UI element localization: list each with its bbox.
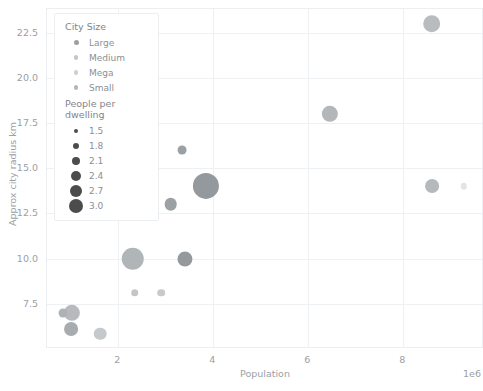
x-gridline <box>403 9 404 347</box>
legend-item-label: 1.8 <box>89 141 103 151</box>
legend-item-label: Small <box>89 83 114 93</box>
legend-item-label: 2.7 <box>89 186 103 196</box>
legend-marker-icon <box>63 129 89 133</box>
y-tick-label: 17.5 <box>0 116 38 127</box>
legend-item-people-per-dwelling[interactable]: 2.7 <box>63 183 150 198</box>
legend-marker-icon <box>63 70 89 74</box>
legend-marker-icon <box>63 143 89 149</box>
legend-item-label: Large <box>89 38 114 48</box>
legend-marker-icon <box>63 171 89 181</box>
legend-marker-icon <box>63 185 89 197</box>
scatter-plot-figure: Approx city radius km Population 1e6 Cit… <box>0 0 483 391</box>
data-point <box>178 146 187 155</box>
legend-item-city-size[interactable]: Small <box>63 80 150 95</box>
data-point <box>461 183 467 189</box>
legend-item-label: 2.4 <box>89 171 103 181</box>
data-point <box>157 289 165 297</box>
chart-legend: City Size LargeMediumMegaSmall People pe… <box>54 13 159 221</box>
y-tick-label: 10.0 <box>0 252 38 263</box>
y-tick-label: 22.5 <box>0 26 38 37</box>
y-tick-label: 7.5 <box>0 297 38 308</box>
legend-item-people-per-dwelling[interactable]: 1.5 <box>63 123 150 138</box>
legend-hue-group: LargeMediumMegaSmall <box>63 35 150 95</box>
legend-item-city-size[interactable]: Medium <box>63 50 150 65</box>
legend-item-people-per-dwelling[interactable]: 1.8 <box>63 138 150 153</box>
y-tick-label: 12.5 <box>0 207 38 218</box>
x-axis-title: Population <box>240 368 290 379</box>
y-gridline <box>47 259 482 260</box>
legend-item-label: 2.1 <box>89 156 103 166</box>
data-point <box>321 106 337 122</box>
x-gridline <box>308 9 309 347</box>
data-point <box>121 247 144 270</box>
legend-item-city-size[interactable]: Mega <box>63 65 150 80</box>
legend-marker-icon <box>63 40 89 45</box>
legend-item-people-per-dwelling[interactable]: 3.0 <box>63 198 150 213</box>
legend-item-people-per-dwelling[interactable]: 2.4 <box>63 168 150 183</box>
legend-marker-icon <box>63 199 89 213</box>
data-point <box>131 289 139 297</box>
legend-marker-icon <box>63 85 89 90</box>
data-point <box>94 327 107 340</box>
x-tick-label: 2 <box>114 354 120 365</box>
legend-item-label: Medium <box>89 53 125 63</box>
y-gridline <box>47 304 482 305</box>
data-point <box>425 179 439 193</box>
legend-marker-icon <box>63 55 89 60</box>
data-point <box>177 251 192 266</box>
data-point <box>193 173 219 199</box>
y-tick-label: 20.0 <box>0 71 38 82</box>
data-point <box>58 308 67 317</box>
legend-size-group: 1.51.82.12.42.73.0 <box>63 123 150 213</box>
legend-marker-icon <box>63 157 89 165</box>
legend-item-label: 3.0 <box>89 201 103 211</box>
y-tick-label: 15.0 <box>0 162 38 173</box>
x-tick-label: 8 <box>399 354 405 365</box>
x-tick-label: 4 <box>209 354 215 365</box>
data-point <box>164 198 177 211</box>
data-point <box>64 322 78 336</box>
legend-item-people-per-dwelling[interactable]: 2.1 <box>63 153 150 168</box>
legend-title-people-per-dwelling: People per dwelling <box>65 98 150 120</box>
x-axis-exponent-label: 1e6 <box>463 368 481 379</box>
legend-item-label: Mega <box>89 68 114 78</box>
legend-item-label: 1.5 <box>89 126 103 136</box>
data-point <box>423 15 441 33</box>
x-tick-label: 6 <box>304 354 310 365</box>
legend-item-city-size[interactable]: Large <box>63 35 150 50</box>
legend-title-city-size: City Size <box>65 21 150 32</box>
